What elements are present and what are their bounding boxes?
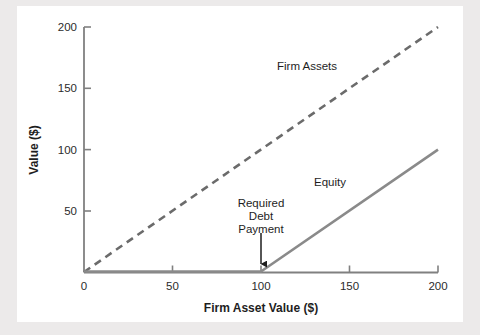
- y-tick-label-50: 50: [64, 205, 77, 217]
- annotation-line-debt: Debt: [249, 210, 274, 222]
- series-label-firm-assets: Firm Assets: [277, 60, 337, 72]
- figure-root: 200 150 100 50 0 50 100 150 200 Firm Ass…: [0, 0, 480, 335]
- x-tick-label-200: 200: [428, 280, 447, 292]
- y-tick-label-150: 150: [58, 82, 77, 94]
- series-label-equity: Equity: [314, 176, 346, 188]
- y-tick-label-200: 200: [58, 21, 77, 33]
- x-tick-label-0: 0: [81, 280, 87, 292]
- x-axis-title: Firm Asset Value ($): [204, 301, 318, 315]
- x-tick-label-50: 50: [166, 280, 179, 292]
- y-tick-label-100: 100: [58, 144, 77, 156]
- y-axis-title: Value ($): [27, 125, 41, 174]
- annotation-line-payment: Payment: [238, 223, 284, 235]
- chart-svg: 200 150 100 50 0 50 100 150 200 Firm Ass…: [0, 0, 480, 335]
- x-tick-label-150: 150: [340, 280, 359, 292]
- annotation-line-required: Required: [238, 197, 285, 209]
- x-tick-label-100: 100: [251, 280, 270, 292]
